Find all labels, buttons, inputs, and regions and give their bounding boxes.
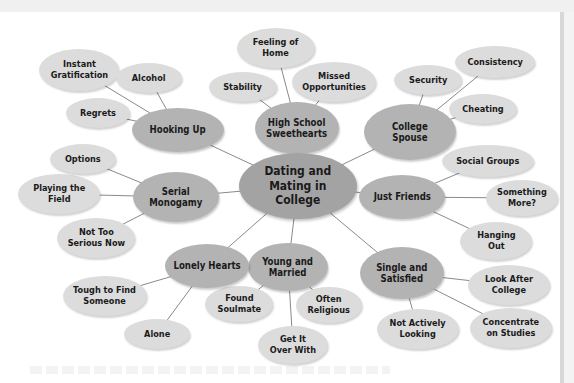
node-label: Regrets	[80, 108, 116, 119]
node-label: Get It Over With	[270, 334, 316, 356]
hub-node-just-friends: Just Friends	[359, 175, 445, 219]
satellite-node: Feeling of Home	[237, 28, 315, 68]
hub-node-single-and-satisfied: Single and Satisfied	[360, 247, 444, 299]
hub-node-young-and-married: Young and Married	[248, 243, 328, 291]
node-label: Something More?	[497, 187, 547, 209]
satellite-node: Something More?	[486, 180, 558, 216]
node-label: Options	[65, 154, 101, 165]
node-label: Lonely Hearts	[173, 260, 240, 272]
node-label: Alcohol	[132, 73, 166, 84]
hub-node-hooking-up: Hooking Up	[132, 108, 224, 152]
node-label: Not Actively Looking	[390, 318, 446, 340]
satellite-node: Social Groups	[442, 145, 534, 177]
satellite-node: Cheating	[449, 94, 517, 124]
node-label: Serial Monogamy	[149, 186, 202, 209]
satellite-node: Stability	[209, 72, 277, 102]
satellite-node: Alcohol	[116, 63, 182, 93]
satellite-node: Often Religious	[296, 287, 362, 323]
node-label: Hooking Up	[150, 124, 206, 136]
node-label: Feeling of Home	[253, 37, 299, 59]
satellite-node: Security	[394, 65, 462, 95]
satellite-node: Get It Over With	[258, 326, 328, 364]
hub-node-high-school-sweethearts: High School Sweethearts	[255, 102, 339, 154]
satellite-node: Consistency	[455, 46, 535, 78]
satellite-node: Missed Opportunities	[292, 62, 376, 102]
node-label: Concentrate on Studies	[483, 317, 540, 339]
node-label: Dating and Mating in College	[265, 164, 332, 207]
node-label: Missed Opportunities	[302, 71, 366, 93]
node-label: Look After College	[485, 274, 533, 296]
node-label: High School Sweethearts	[266, 117, 327, 140]
satellite-node: Concentrate on Studies	[470, 308, 552, 348]
node-label: Stability	[224, 82, 263, 93]
satellite-node: Options	[50, 144, 116, 174]
node-label: Cheating	[462, 104, 503, 115]
hub-node-lonely-hearts: Lonely Hearts	[165, 244, 249, 288]
satellite-node: Hanging Out	[460, 222, 532, 260]
node-label: Found Soulmate	[217, 293, 261, 315]
node-label: Social Groups	[456, 156, 519, 167]
node-label: Hanging Out	[477, 230, 515, 252]
central-node: Dating and Mating in College	[239, 153, 357, 219]
satellite-node: Regrets	[66, 98, 130, 128]
node-label: Consistency	[467, 57, 522, 68]
node-label: Alone	[144, 329, 170, 340]
node-label: Just Friends	[373, 191, 430, 203]
satellite-node: Playing the Field	[18, 174, 100, 214]
hub-node-college-spouse: College Spouse	[364, 104, 456, 160]
satellite-node: Alone	[124, 319, 190, 349]
node-label: Often Religious	[308, 294, 350, 316]
satellite-node: Tough to Find Someone	[63, 276, 147, 316]
hub-node-serial-monogamy: Serial Monogamy	[133, 172, 219, 222]
node-label: Instant Gratification	[50, 59, 108, 81]
node-label: Not Too Serious Now	[67, 227, 124, 249]
satellite-node: Not Actively Looking	[377, 309, 459, 349]
node-label: Security	[409, 75, 447, 86]
satellite-node: Not Too Serious Now	[57, 218, 135, 258]
node-label: Single and Satisfied	[376, 262, 427, 285]
satellite-node: Found Soulmate	[205, 286, 273, 322]
node-label: College Spouse	[392, 121, 428, 144]
satellite-node: Look After College	[468, 265, 550, 305]
node-label: Tough to Find Someone	[74, 285, 137, 307]
satellite-node: Instant Gratification	[39, 49, 119, 91]
node-label: Young and Married	[263, 256, 314, 279]
node-label: Playing the Field	[33, 183, 85, 205]
